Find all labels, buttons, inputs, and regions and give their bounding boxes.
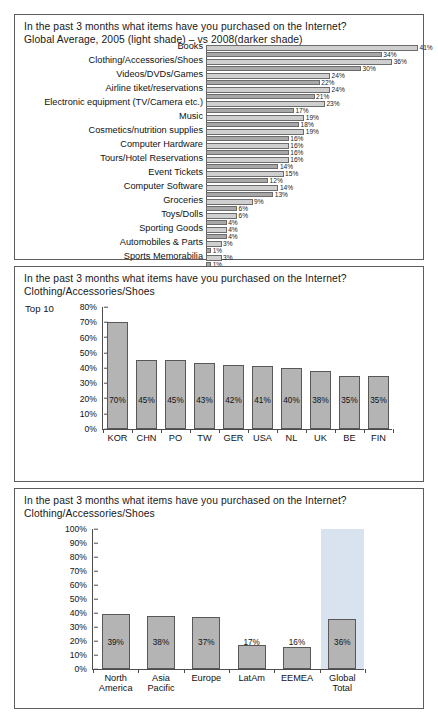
vertical-bar-chart-regions: 0%10%20%30%40%50%60%70%80%90%100%39%Nort… [93, 529, 365, 669]
bar-pair: 23%17% [206, 101, 419, 115]
panel-clothing-regions: In the past 3 months what items have you… [14, 488, 424, 709]
x-axis-label: GlobalTotal [316, 673, 368, 694]
bar-value-label: 17% [238, 639, 266, 647]
regions-chart-area: 0%10%20%30%40%50%60%70%80%90%100%39%Nort… [15, 519, 423, 707]
panel-2-title-line2: Clothing/Accessories/Shoes [24, 286, 415, 299]
category-label: Computer Software [15, 181, 203, 192]
x-axis-label: AsiaPacific [135, 673, 187, 694]
panel-internet-purchases-global: In the past 3 months what items have you… [14, 14, 424, 260]
bar-2005 [206, 115, 304, 120]
bar [283, 647, 311, 669]
x-axis-tick [365, 669, 366, 673]
bar-2005 [206, 199, 253, 204]
bar-2008 [206, 178, 268, 183]
panel-2-title: In the past 3 months what items have you… [24, 273, 415, 298]
x-axis-tick [190, 429, 191, 433]
bar-value-label: 3% [223, 241, 233, 248]
y-axis-tick: 30% [70, 623, 93, 632]
category-label: Books [15, 41, 203, 52]
x-axis [102, 429, 392, 430]
page-footer [8, 712, 430, 721]
bar-pair: 24%22% [206, 73, 419, 87]
bar-value-label: 23% [326, 101, 339, 108]
bar-2005 [206, 87, 330, 92]
bar-slot: 16%EEMEA [283, 529, 311, 669]
category-label: Automobiles & Parts [15, 237, 203, 248]
bar-2008 [206, 122, 299, 127]
x-axis-label: FIN [356, 433, 400, 443]
bar-2008 [206, 52, 382, 57]
bar-slot: 45%CHN [136, 307, 156, 429]
bar-value-label: 38% [147, 639, 175, 647]
x-axis-tick [393, 429, 394, 433]
bar-value-label: 3% [223, 255, 233, 262]
bar-2005 [206, 101, 325, 106]
bar-value-label: 13% [275, 192, 288, 199]
bar-value-label: 37% [192, 639, 220, 647]
bar-2008 [206, 136, 289, 141]
bar-value-label: 1% [213, 248, 223, 255]
bar-2005 [206, 59, 392, 64]
y-axis-tick: 50% [80, 348, 103, 357]
bar-2008 [206, 234, 227, 239]
bar-value-label: 19% [306, 129, 319, 136]
bar-pair: 16%14% [206, 157, 419, 171]
bar-pair: 24%21% [206, 87, 419, 101]
bar [136, 360, 156, 429]
bar-value-label: 45% [165, 397, 185, 405]
bar-pair: 3%1% [206, 241, 419, 255]
bar-value-label: 43% [194, 397, 214, 405]
x-axis-tick [103, 429, 104, 433]
y-axis-tick: 80% [80, 303, 103, 312]
bar-2008 [206, 66, 361, 71]
bar-value-label: 6% [239, 213, 249, 220]
bar-value-label: 39% [102, 639, 130, 647]
bar-pair: 14%13% [206, 185, 419, 199]
x-axis [92, 669, 364, 670]
x-axis-tick [132, 429, 133, 433]
bar-slot: 17%LatAm [238, 529, 266, 669]
bar [238, 645, 266, 669]
bar-slot: 40%NL [281, 307, 301, 429]
bar-2008 [206, 206, 237, 211]
bar-value-label: 41% [420, 45, 433, 52]
bar-2008 [206, 164, 278, 169]
bar-slot: 37%Europe [192, 529, 220, 669]
x-axis-tick [138, 669, 139, 673]
y-axis-tick: 0% [85, 425, 103, 434]
bar-slot: 38%AsiaPacific [147, 529, 175, 669]
x-axis-label: Europe [180, 673, 232, 683]
bar-value-label: 40% [281, 397, 301, 405]
chart-page: In the past 3 months what items have you… [0, 0, 438, 723]
bar-pair: 16%16% [206, 143, 419, 157]
y-axis-tick: 0% [75, 665, 93, 674]
category-label: Toys/Dolls [15, 209, 203, 220]
y-axis-tick: 70% [70, 567, 93, 576]
bar-value-label: 30% [363, 66, 376, 73]
bar-2005 [206, 73, 330, 78]
bar-value-label: 41% [252, 397, 272, 405]
bar-value-label: 35% [339, 397, 359, 405]
bar-value-label: 42% [223, 397, 243, 405]
x-axis-tick [184, 669, 185, 673]
panel-3-title: In the past 3 months what items have you… [24, 495, 415, 520]
bar-value-label: 24% [332, 87, 345, 94]
bar-2005 [206, 213, 237, 218]
bar-value-label: 9% [254, 199, 264, 206]
bar-value-label: 38% [310, 397, 330, 405]
y-axis-tick: 20% [70, 637, 93, 646]
bar-2005 [206, 185, 278, 190]
bar-pair: 4%4% [206, 227, 419, 241]
bar-slot: 36%GlobalTotal [328, 529, 356, 669]
bar-2005 [206, 255, 222, 260]
bar-value-label: 45% [136, 397, 156, 405]
category-label: Airline tiket/reservations [15, 83, 203, 94]
panel-2-title-line1: In the past 3 months what items have you… [24, 273, 415, 286]
bar-slot: 70%KOR [107, 307, 127, 429]
bar-2008 [206, 248, 211, 253]
category-label: Sporting Goods [15, 223, 203, 234]
bar-slot: 45%PO [165, 307, 185, 429]
bar-slot: 38%UK [310, 307, 330, 429]
category-label: Tours/Hotel Reservations [15, 153, 203, 164]
bar-2005 [206, 227, 227, 232]
